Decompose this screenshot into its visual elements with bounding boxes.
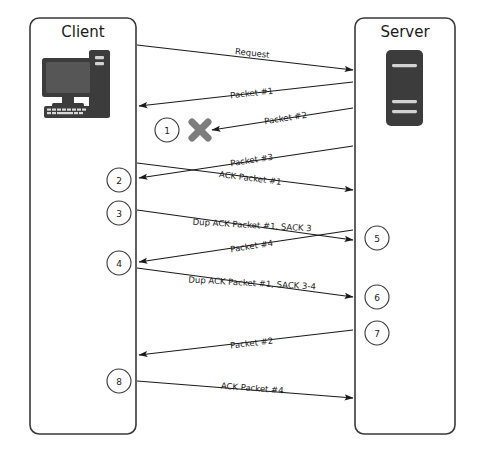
server-label: Server [380, 23, 430, 41]
message-label: Packet #2 [263, 110, 307, 127]
diagram-canvas: Client [0, 0, 483, 454]
step-marker-5[interactable]: 5 [365, 226, 389, 250]
message-packet-4[interactable]: Packet #4 [139, 230, 353, 262]
step-marker-2[interactable]: 2 [107, 168, 131, 192]
step-marker-8[interactable]: 8 [107, 369, 131, 393]
step-marker-4[interactable]: 4 [107, 251, 131, 275]
message-ack-packet-1[interactable]: ACK Packet #1 [137, 163, 353, 190]
step-number: 3 [116, 209, 122, 219]
message-packet-1[interactable]: Packet #1 [139, 82, 353, 106]
message-packet-2-retransmit[interactable]: Packet #2 [139, 330, 353, 355]
sequence-diagram: Client [0, 0, 483, 454]
step-marker-7[interactable]: 7 [365, 321, 389, 345]
step-number: 5 [374, 234, 380, 244]
packet-loss-x-icon [192, 122, 208, 138]
message-ack-packet-4[interactable]: ACK Packet #4 [137, 381, 353, 398]
step-number: 4 [116, 259, 122, 269]
message-label: Dup ACK Packet #1, SACK 3 [192, 217, 312, 234]
server-tower-icon [386, 50, 423, 126]
message-label: Packet #2 [230, 336, 274, 351]
message-label: Dup ACK Packet #1, SACK 3-4 [188, 274, 316, 291]
step-number: 2 [116, 176, 122, 186]
step-number: 8 [116, 377, 122, 387]
message-label: Request [235, 46, 271, 60]
message-label: Packet #1 [230, 86, 274, 101]
message-dup-ack-sack-3-4[interactable]: Dup ACK Packet #1, SACK 3-4 [137, 268, 353, 297]
message-label: ACK Packet #4 [220, 381, 284, 396]
message-dup-ack-sack-3[interactable]: Dup ACK Packet #1, SACK 3 [137, 210, 353, 240]
step-marker-6[interactable]: 6 [365, 285, 389, 309]
step-number: 7 [374, 329, 380, 339]
step-number: 6 [374, 293, 380, 303]
endpoint-server[interactable]: Server [355, 18, 455, 434]
client-label: Client [61, 23, 105, 41]
step-number: 1 [164, 126, 170, 136]
message-request[interactable]: Request [137, 45, 353, 70]
message-label: Packet #4 [230, 238, 274, 254]
desktop-computer-icon [42, 50, 110, 118]
message-label: Packet #3 [230, 152, 274, 168]
step-marker-3[interactable]: 3 [107, 201, 131, 225]
step-marker-1[interactable]: 1 [155, 118, 179, 142]
message-packet-2-dropped[interactable]: Packet #2 [212, 108, 353, 130]
message-label: ACK Packet #1 [219, 169, 283, 187]
